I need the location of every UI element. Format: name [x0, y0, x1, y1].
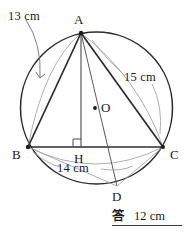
- answer-label: 答: [112, 210, 125, 223]
- vertex-dot-c: [161, 145, 165, 149]
- measurement-label-ab: 13 cm: [8, 10, 40, 23]
- answer-value: 12 cm: [134, 210, 165, 223]
- leader-15cm-tail: [152, 84, 161, 134]
- answer-row: 答 12 cm: [112, 210, 182, 226]
- geometry-diagram: [0, 0, 188, 238]
- point-label-o: O: [101, 101, 111, 114]
- point-label-d: D: [112, 190, 122, 203]
- figure-canvas: A B C H O D 13 cm 15 cm 14 cm 答 12 cm: [0, 0, 188, 238]
- point-label-a: A: [74, 13, 84, 26]
- measurement-label-bc: 14 cm: [57, 162, 89, 175]
- vertex-dot-a: [79, 31, 83, 35]
- point-label-c: C: [170, 148, 179, 161]
- segment-ab: [28, 33, 81, 147]
- right-angle-mark: [73, 139, 81, 147]
- center-dot-o: [93, 106, 97, 110]
- leader-14cm-tail: [101, 166, 133, 170]
- measurement-label-ac: 15 cm: [124, 71, 156, 84]
- segment-ac: [81, 33, 163, 147]
- vertex-dot-b: [26, 145, 30, 149]
- point-label-b: B: [12, 148, 21, 161]
- segment-cd: [117, 147, 163, 186]
- leader-13cm: [26, 20, 40, 78]
